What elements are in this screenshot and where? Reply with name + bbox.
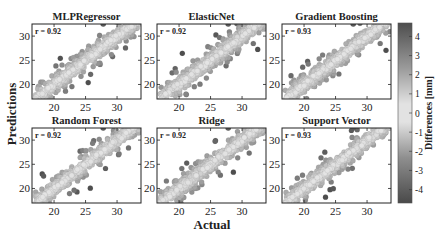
y-tick-label: 25 — [144, 54, 156, 66]
colorbar-tick-label: 0 — [415, 109, 420, 119]
x-tick-label: 25 — [80, 101, 92, 113]
x-tick-label: 20 — [49, 101, 61, 113]
y-tick-label: 30 — [19, 30, 31, 42]
x-tick-label: 30 — [237, 101, 249, 113]
y-tick-label: 20 — [144, 78, 156, 90]
correlation-annotation: r = 0.92 — [160, 131, 186, 140]
subplot-ridge: 202530202530Ridger = 0.92 — [144, 109, 269, 226]
x-tick-label: 30 — [112, 205, 124, 217]
x-tick-label: 20 — [174, 205, 186, 217]
y-tick-label: 25 — [144, 158, 156, 170]
y-tick-label: 25 — [19, 54, 31, 66]
x-tick-label: 25 — [80, 205, 92, 217]
y-tick-label: 20 — [19, 78, 31, 90]
x-tick-label: 25 — [205, 205, 217, 217]
subplot-title: ElasticNet — [188, 11, 235, 22]
correlation-annotation: r = 0.92 — [160, 27, 186, 36]
y-tick-label: 25 — [269, 158, 281, 170]
colorbar-tick-label: -3 — [415, 166, 423, 176]
x-tick-label: 30 — [362, 205, 374, 217]
correlation-annotation: r = 0.92 — [35, 131, 61, 140]
x-tick-label: 25 — [330, 101, 342, 113]
subplot-title: MLPRegressor — [52, 11, 120, 22]
subplot-random-forest: 202530202530Random Forestr = 0.92 — [19, 114, 144, 225]
figure-canvas: 202530202530MLPRegressorr = 0.9220253020… — [0, 0, 440, 237]
y-tick-label: 20 — [269, 182, 281, 194]
y-tick-label: 20 — [269, 78, 281, 90]
x-tick-label: 25 — [205, 101, 217, 113]
colorbar-label: Differences [mm] — [423, 76, 434, 150]
x-tick-label: 20 — [299, 101, 311, 113]
subplot-title: Support Vector — [302, 115, 371, 126]
x-tick-label: 30 — [237, 205, 249, 217]
colorbar-tick-label: -1 — [415, 128, 423, 138]
colorbar-tick-label: 3 — [415, 51, 420, 61]
colorbar: 43210-1-2-3-4 Differences [mm] — [398, 23, 434, 203]
y-tick-label: 30 — [19, 134, 31, 146]
x-tick-label: 30 — [362, 101, 374, 113]
y-tick-label: 30 — [144, 30, 156, 42]
y-tick-label: 20 — [19, 182, 31, 194]
subplot-support-vector: 202530202530Support Vectorr = 0.93 — [269, 105, 393, 217]
colorbar-tick-label: 1 — [415, 89, 420, 99]
x-tick-label: 20 — [174, 101, 186, 113]
y-tick-label: 30 — [269, 30, 281, 42]
y-tick-label: 25 — [19, 158, 31, 170]
y-tick-label: 20 — [144, 182, 156, 194]
subplot-title: Random Forest — [52, 115, 122, 126]
y-tick-label: 30 — [144, 134, 156, 146]
x-tick-label: 20 — [49, 205, 61, 217]
correlation-annotation: r = 0.92 — [35, 27, 61, 36]
y-tick-label: 25 — [269, 54, 281, 66]
y-axis-label: Predictions — [4, 83, 19, 146]
x-tick-label: 30 — [112, 101, 124, 113]
x-tick-label: 20 — [299, 205, 311, 217]
x-tick-label: 25 — [330, 205, 342, 217]
subplot-gradient-boosting: 202530202530Gradient Boostingr = 0.93 — [269, 1, 393, 113]
colorbar-tick-label: -4 — [415, 185, 423, 195]
x-axis-label: Actual — [194, 217, 231, 232]
subplot-mlpregressor: 202530202530MLPRegressorr = 0.92 — [19, 0, 143, 115]
colorbar-tick-label: 4 — [415, 32, 420, 42]
subplot-title: Ridge — [198, 115, 225, 126]
colorbar-tick-label: -2 — [415, 147, 423, 157]
figure: 202530202530MLPRegressorr = 0.9220253020… — [0, 0, 440, 237]
subplot-elasticnet: 202530202530ElasticNetr = 0.92 — [144, 9, 269, 113]
y-tick-label: 30 — [269, 134, 281, 146]
correlation-annotation: r = 0.93 — [285, 131, 311, 140]
colorbar-tick-label: 2 — [415, 70, 420, 80]
correlation-annotation: r = 0.93 — [285, 27, 311, 36]
subplot-title: Gradient Boosting — [295, 11, 378, 22]
